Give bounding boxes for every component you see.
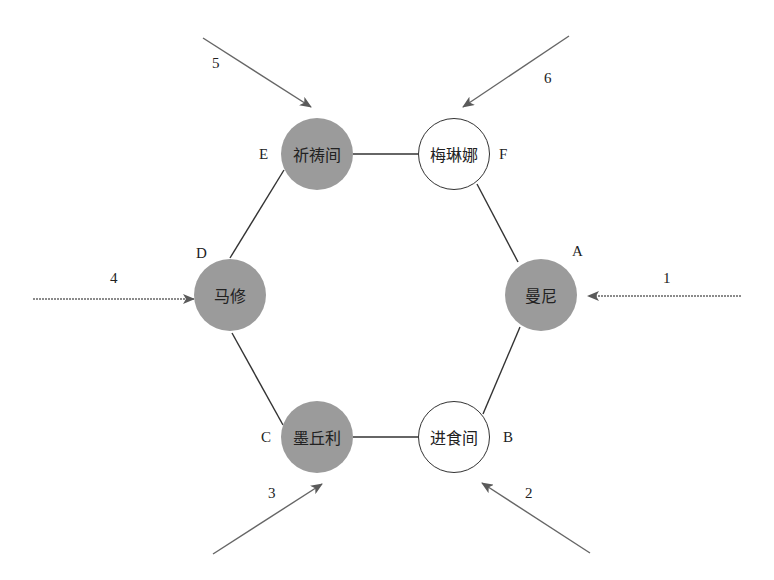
node-e-label: 祈祷间 [293, 142, 341, 166]
arrows [33, 36, 741, 554]
node-letter-e: E [259, 146, 268, 163]
node-d-label: 马修 [214, 283, 246, 307]
node-b-label: 进食间 [430, 425, 478, 449]
arrow-5 [203, 38, 311, 107]
diagram-canvas [0, 0, 774, 580]
arrow-label-6: 6 [544, 70, 552, 87]
node-letter-c: C [261, 429, 271, 446]
node-d: 马修 [194, 259, 266, 331]
arrow-label-3: 3 [268, 485, 276, 502]
node-c: 墨丘利 [281, 401, 353, 473]
node-letter-f: F [499, 146, 507, 163]
node-b: 进食间 [418, 401, 490, 473]
arrow-6 [463, 36, 569, 107]
arrow-label-4: 4 [110, 270, 118, 287]
node-f-label: 梅琳娜 [430, 142, 478, 166]
node-f: 梅琳娜 [418, 118, 490, 190]
node-c-label: 墨丘利 [293, 425, 341, 449]
node-letter-b: B [503, 429, 513, 446]
node-a: 曼尼 [505, 259, 577, 331]
arrow-label-1: 1 [663, 270, 671, 287]
arrow-label-5: 5 [212, 55, 220, 72]
edge-f-a [477, 184, 518, 262]
edge-c-d [232, 333, 283, 425]
node-a-label: 曼尼 [525, 283, 557, 307]
arrow-2 [482, 483, 590, 553]
node-e: 祈祷间 [281, 118, 353, 190]
edge-d-e [230, 170, 284, 258]
arrow-label-2: 2 [525, 485, 533, 502]
node-letter-a: A [572, 243, 583, 260]
node-letter-d: D [196, 245, 207, 262]
edge-a-b [483, 327, 520, 414]
edges [230, 154, 520, 437]
